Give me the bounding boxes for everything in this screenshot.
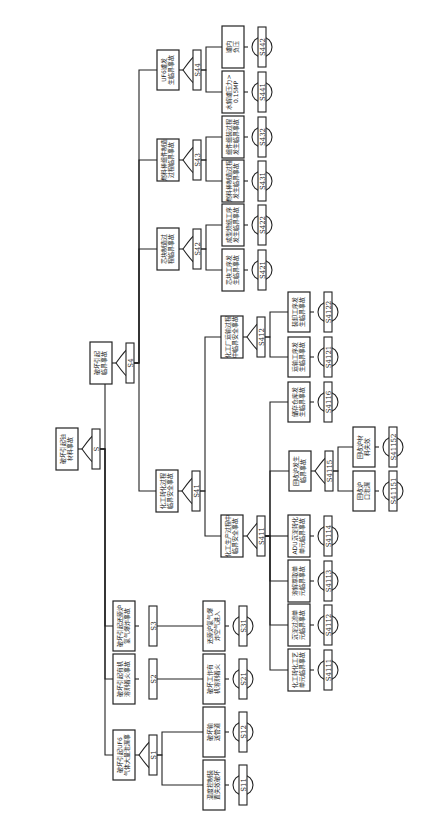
event-label: 储存仓库发生临界事故	[291, 387, 306, 417]
event-s431: 燃料棒制造过程发生临界事故	[222, 160, 244, 202]
event-label: 回收炉材料失效	[356, 435, 371, 459]
event-s2: 破坏引起有机溶剂着火事故	[113, 654, 135, 704]
event-label: 破坏引起铀材料事故	[59, 434, 74, 464]
event-s21: 破坏工作有机溶剂着火	[203, 654, 225, 704]
event-code: S12	[240, 725, 248, 739]
event-label: 还原炉氢气爆炸空气进入	[206, 608, 221, 644]
event-s411: 化工生产过程中临界安全事故	[221, 515, 243, 557]
event-s4113: 溶解萃取单元临界事故	[288, 560, 310, 602]
event-label: 罐内负压	[225, 41, 240, 53]
event-s12: 破坏输送管道	[203, 707, 225, 757]
event-code: S3	[150, 621, 158, 630]
gate-s412: S412	[247, 317, 266, 357]
event-label: 温度控制装置失效破坏	[206, 770, 221, 800]
event-code: S41	[193, 484, 201, 498]
event-label: 破坏引起有机溶剂着火事故	[116, 661, 131, 697]
fault-tree-diagram: SS4S44S43S42S41S411S412S442S441S432S431S…	[0, 0, 428, 825]
event-s422: 成型烧结工序发生临界事故	[222, 204, 244, 246]
event-s442: 罐内负压	[222, 26, 244, 68]
event-s1: 破坏引起UF6气体大量泄漏事	[113, 730, 135, 780]
event-code: S4112	[325, 614, 333, 637]
event-s4114: ADU沉淀转化单元临界事故	[288, 515, 310, 557]
event-s3: 破坏引起还原炉氢气爆炸事故	[113, 601, 135, 651]
gate-s: S	[82, 429, 101, 469]
event-s4115: 回收炉发生临界事故	[289, 451, 311, 491]
event-label: 沉淀过滤单元临界事故	[291, 610, 306, 640]
event-code: S431	[259, 172, 267, 190]
event-label: 化工转化工艺单元临界事故	[291, 652, 306, 688]
event-label: 燃料棒组件制造过程临界事故	[160, 139, 175, 181]
basic-event-circle-s41151: S41151	[383, 471, 403, 511]
event-s4112: 沉淀过滤单元临界事故	[288, 604, 310, 646]
event-s4121: 运输工序发生临界事故	[288, 337, 310, 377]
event-s4: 破坏引起临界事故	[90, 342, 112, 384]
basic-event-circle-s4116: S4116	[318, 382, 338, 422]
basic-event-circle-s4121: S4121	[318, 337, 338, 377]
basic-event-circle-s12: S12	[233, 712, 253, 752]
event-label: 破坏引起UF6气体大量泄漏事	[116, 734, 131, 776]
event-s4116: 储存仓库发生临界事故	[288, 382, 310, 422]
event-label: 溶解萃取单元临界事故	[291, 566, 306, 596]
basic-event-circle-s4111: S4111	[318, 650, 338, 690]
basic-event-circle-s422: S422	[252, 205, 272, 245]
event-code: S11	[240, 778, 248, 792]
gate-s41: S41	[182, 471, 201, 511]
event-code: S422	[259, 216, 267, 234]
basic-event-circle-s4112: S4112	[318, 605, 338, 645]
gate-s42: S42	[183, 229, 202, 269]
event-s441: 水解罐压力>0.15MP	[222, 71, 244, 113]
event-label: 成型烧结工序发生临界事故	[225, 207, 240, 243]
event-code: S442	[259, 38, 267, 56]
basic-event-circle-s431: S431	[252, 161, 272, 201]
event-label: 芯块工序发生临界事故	[225, 255, 240, 285]
event-code: S4121	[325, 346, 333, 369]
event-s43: 燃料棒组件制造过程临界事故	[157, 139, 179, 181]
event-code: S2	[150, 674, 158, 683]
event-label: 回收炉口泄漏	[356, 482, 371, 500]
event-code: S44	[194, 63, 202, 77]
event-code: S42	[194, 242, 202, 256]
event-label: 芯块制造过程临界事故	[160, 234, 175, 264]
event-s44: UF6罐发生临界事故	[157, 50, 179, 90]
basic-event-circle-s41152: S41152	[383, 427, 403, 467]
event-code: S412	[258, 328, 266, 346]
gate-s2: S2	[149, 659, 158, 699]
event-code: S41152	[390, 433, 398, 460]
event-code: S41151	[390, 477, 398, 504]
event-code: S4115	[326, 460, 334, 483]
gate-s4: S4	[116, 343, 135, 383]
event-label: 破坏引起还原炉氢气爆炸事故	[116, 605, 131, 647]
basic-event-circle-s4113: S4113	[318, 561, 338, 601]
event-s42: 芯块制造过程临界事故	[157, 228, 179, 270]
event-s41152: 回收炉材料失效	[353, 427, 375, 467]
basic-event-circle-s432: S432	[252, 117, 272, 157]
event-label: UF6罐发生临界事故	[160, 55, 175, 85]
event-code: S4116	[325, 390, 333, 413]
event-s421: 芯块工序发生临界事故	[222, 249, 244, 291]
basic-event-circle-s441: S441	[252, 72, 272, 112]
event-s412: 化工厂运输过程中临界安全事故	[221, 316, 243, 358]
event-code: S441	[259, 83, 267, 101]
event-s4122: 装卸工序发生临界事故	[288, 292, 310, 332]
basic-event-circle-s4114: S4114	[318, 516, 338, 556]
basic-event-circle-s21: S21	[233, 659, 253, 699]
gate-s43: S43	[183, 140, 202, 180]
event-code: S411	[258, 527, 266, 545]
event-s4111: 化工转化工艺单元临界事故	[288, 649, 310, 691]
basic-event-circle-s31: S31	[233, 606, 253, 646]
event-s11: 温度控制装置失效破坏	[203, 760, 225, 810]
basic-event-circle-s4122: S4122	[318, 292, 338, 332]
event-code: S4111	[325, 659, 333, 682]
event-label: 燃料棒制造过程发生临界事故	[225, 160, 240, 202]
event-code: S31	[240, 619, 248, 633]
event-code: S21	[240, 672, 248, 686]
event-code: S	[93, 446, 101, 451]
gate-s4115: S4115	[315, 451, 334, 491]
event-label: ADU沉淀转化单元临界事故	[291, 517, 306, 554]
gate-s411: S411	[247, 516, 266, 556]
event-label: 化工生产过程中临界安全事故	[224, 515, 239, 557]
event-label: 破坏工作有机溶剂着火	[206, 664, 221, 694]
event-label: 运输工序发生临界事故	[291, 342, 306, 372]
event-code: S1	[150, 750, 158, 759]
event-code: S421	[259, 261, 267, 279]
